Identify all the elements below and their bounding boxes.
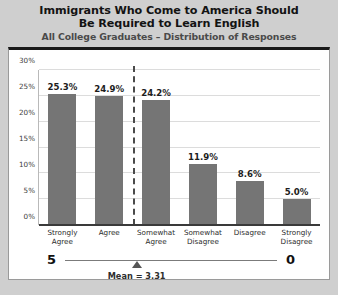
x-axis-category-line: Agree xyxy=(133,237,180,246)
x-axis-category-line: Strongly xyxy=(273,228,320,237)
bar-value-label: 11.9% xyxy=(188,152,218,162)
scale-endpoint-right: 0 xyxy=(286,253,295,266)
x-axis-category-line: Disagree xyxy=(226,228,273,237)
x-axis-category-line: Agree xyxy=(39,237,86,246)
y-axis-tick-label: 5% xyxy=(24,186,35,195)
mean-label: Mean = 3.31 xyxy=(108,271,166,281)
x-axis-labels: StronglyAgreeAgreeSomewhatAgreeSomewhatD… xyxy=(39,228,320,246)
x-axis-category-line: Agree xyxy=(86,228,133,237)
category-divider-line xyxy=(133,66,135,225)
x-axis-category-line: Disagree xyxy=(273,237,320,246)
bar[interactable]: 11.9% xyxy=(189,164,217,225)
bar-slot: 24.9% xyxy=(86,70,133,225)
x-axis-category-label: Agree xyxy=(86,228,133,246)
x-axis-category-label: StronglyAgree xyxy=(39,228,86,246)
bar-value-label: 24.9% xyxy=(94,84,124,94)
bar[interactable]: 24.2% xyxy=(142,100,170,225)
mean-marker-triangle xyxy=(132,261,142,268)
plot-area: 0%5%10%15%20%25%30% 25.3%24.9%24.2%11.9%… xyxy=(39,70,320,225)
response-scale: 5 0 Mean = 3.31 xyxy=(25,253,315,279)
scale-axis-line: Mean = 3.31 xyxy=(65,260,277,261)
chart-title-line-1: Immigrants Who Come to America Should xyxy=(0,4,338,17)
y-axis-tick-label: 0% xyxy=(24,212,35,221)
bar[interactable]: 8.6% xyxy=(236,181,264,225)
chart-title-line-2: Be Required to Learn English xyxy=(0,17,338,30)
y-axis-tick-label: 25% xyxy=(19,82,35,91)
y-axis-tick-label: 10% xyxy=(19,160,35,169)
bar[interactable]: 24.9% xyxy=(95,96,123,225)
x-axis-category-line: Somewhat xyxy=(179,228,226,237)
bar-value-label: 8.6% xyxy=(238,169,262,179)
chart-header: Immigrants Who Come to America Should Be… xyxy=(0,0,338,48)
x-axis-category-line: Strongly xyxy=(39,228,86,237)
bar-value-label: 25.3% xyxy=(47,82,77,92)
x-axis-category-label: Disagree xyxy=(226,228,273,246)
bar-value-label: 5.0% xyxy=(285,187,309,197)
x-axis-category-label: StronglyDisagree xyxy=(273,228,320,246)
bar-slot: 24.2% xyxy=(133,70,180,225)
plot-inner: 0%5%10%15%20%25%30% 25.3%24.9%24.2%11.9%… xyxy=(39,70,320,225)
x-axis-baseline xyxy=(39,224,320,226)
x-axis-category-line: Disagree xyxy=(179,237,226,246)
scale-endpoint-left: 5 xyxy=(47,253,56,266)
bar-slot: 8.6% xyxy=(226,70,273,225)
y-axis-tick-label: 30% xyxy=(19,56,35,65)
bar-series: 25.3%24.9%24.2%11.9%8.6%5.0% xyxy=(39,70,320,225)
bar[interactable]: 5.0% xyxy=(283,199,311,225)
chart-subtitle: All College Graduates – Distribution of … xyxy=(0,31,338,43)
x-axis-category-label: SomewhatAgree xyxy=(133,228,180,246)
bar-slot: 5.0% xyxy=(273,70,320,225)
x-axis-category-line: Somewhat xyxy=(133,228,180,237)
bar-slot: 25.3% xyxy=(39,70,86,225)
y-axis-tick-label: 20% xyxy=(19,108,35,117)
y-axis-tick-label: 15% xyxy=(19,134,35,143)
chart-panel: 0%5%10%15%20%25%30% 25.3%24.9%24.2%11.9%… xyxy=(8,47,330,280)
x-axis-category-label: SomewhatDisagree xyxy=(179,228,226,246)
bar-slot: 11.9% xyxy=(179,70,226,225)
bar[interactable]: 25.3% xyxy=(48,94,76,225)
chart-figure: Immigrants Who Come to America Should Be… xyxy=(0,0,338,295)
bar-value-label: 24.2% xyxy=(141,88,171,98)
